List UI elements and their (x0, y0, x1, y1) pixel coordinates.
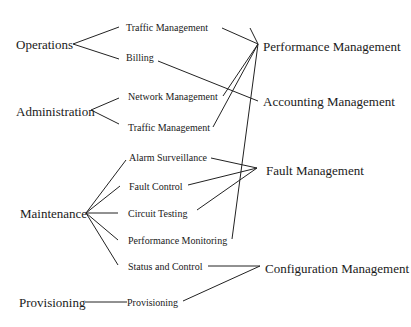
target-accounting-management: Accounting Management (263, 95, 395, 108)
function-network-management: Network Management (128, 92, 218, 102)
function-fault-control: Fault Control (129, 182, 183, 192)
target-performance-management: Performance Management (263, 40, 401, 53)
function-traffic-management-2: Traffic Management (128, 123, 210, 133)
function-status-and-control: Status and Control (128, 262, 202, 272)
function-alarm-surveillance: Alarm Surveillance (129, 153, 207, 163)
function-provisioning: Provisioning (127, 298, 178, 308)
function-billing: Billing (126, 53, 154, 63)
source-administration: Administration (16, 105, 95, 118)
target-configuration-management: Configuration Management (265, 262, 409, 275)
function-traffic-management-1: Traffic Management (126, 23, 208, 33)
function-circuit-testing: Circuit Testing (128, 209, 187, 219)
source-maintenance: Maintenance (20, 207, 87, 220)
source-provisioning: Provisioning (19, 296, 85, 309)
target-fault-management: Fault Management (266, 164, 364, 177)
function-performance-monitoring: Performance Monitoring (128, 236, 227, 246)
source-operations: Operations (16, 38, 73, 51)
